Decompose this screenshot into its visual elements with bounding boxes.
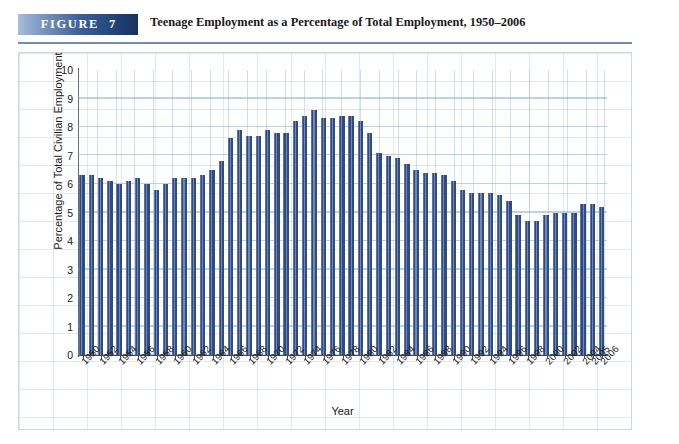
figure-header: FIGURE 7 Teenage Employment as a Percent… — [18, 14, 632, 38]
x-tick-mark-1952 — [101, 355, 102, 359]
bar-1993[interactable] — [478, 193, 483, 355]
figure-badge-number: 7 — [109, 17, 115, 32]
x-tick-mark-2005 — [593, 355, 594, 359]
chart-container: Percentage of Total Civilian Employment … — [18, 52, 632, 430]
bar-1990[interactable] — [451, 181, 456, 355]
x-tick-mark-2006 — [602, 355, 603, 359]
bar-1989[interactable] — [441, 175, 446, 355]
x-tick-mark-1954 — [120, 355, 121, 359]
bar-1967[interactable] — [237, 130, 242, 355]
x-tick-mark-2002 — [565, 355, 566, 359]
bar-1974[interactable] — [302, 116, 307, 355]
bar-1962[interactable] — [191, 178, 196, 355]
x-tick-mark-1970 — [268, 355, 269, 359]
y-axis-tick-5: 5 — [43, 207, 73, 218]
x-axis-title: Year — [78, 405, 607, 417]
x-tick-mark-1978 — [343, 355, 344, 359]
bar-1953[interactable] — [107, 181, 112, 355]
y-axis-tick-9: 9 — [43, 93, 73, 104]
bar-1970[interactable] — [265, 130, 270, 355]
y-axis-tick-2: 2 — [43, 293, 73, 304]
bar-1964[interactable] — [209, 170, 214, 355]
x-tick-mark-1968 — [250, 355, 251, 359]
bar-1999[interactable] — [534, 221, 539, 355]
x-tick-mark-1962 — [194, 355, 195, 359]
bar-1972[interactable] — [283, 133, 288, 355]
bar-1976[interactable] — [321, 118, 326, 355]
x-tick-mark-1996 — [510, 355, 511, 359]
bar-2003[interactable] — [571, 213, 576, 356]
bar-1985[interactable] — [404, 164, 409, 355]
x-tick-mark-1982 — [380, 355, 381, 359]
bar-1975[interactable] — [311, 110, 316, 355]
bar-2001[interactable] — [553, 213, 558, 356]
bar-1988[interactable] — [432, 173, 437, 355]
bar-1995[interactable] — [497, 195, 502, 355]
bar-1954[interactable] — [116, 184, 121, 355]
bar-1992[interactable] — [469, 193, 474, 355]
plot-area — [78, 70, 607, 355]
bar-2006[interactable] — [599, 207, 604, 355]
bar-1982[interactable] — [376, 153, 381, 355]
y-axis-tick-4: 4 — [43, 236, 73, 247]
bar-1958[interactable] — [154, 190, 159, 355]
x-tick-mark-1950 — [83, 355, 84, 359]
bar-1956[interactable] — [135, 178, 140, 355]
y-axis-tick-6: 6 — [43, 179, 73, 190]
x-tick-mark-1988 — [435, 355, 436, 359]
bar-1996[interactable] — [506, 201, 511, 355]
x-tick-mark-2000 — [547, 355, 548, 359]
x-tick-mark-1980 — [361, 355, 362, 359]
y-axis-tick-0: 0 — [43, 350, 73, 361]
bar-1978[interactable] — [339, 116, 344, 355]
bar-1980[interactable] — [358, 121, 363, 355]
bar-1983[interactable] — [386, 156, 391, 356]
y-axis-tick-7: 7 — [43, 150, 73, 161]
y-axis-tick-8: 8 — [43, 122, 73, 133]
x-tick-mark-1972 — [287, 355, 288, 359]
bar-1965[interactable] — [219, 161, 224, 355]
bar-1951[interactable] — [89, 175, 94, 355]
bar-2005[interactable] — [590, 204, 595, 355]
bar-2004[interactable] — [580, 204, 585, 355]
x-tick-mark-1990 — [454, 355, 455, 359]
bar-2002[interactable] — [562, 213, 567, 356]
bar-1950[interactable] — [79, 175, 84, 355]
bar-1984[interactable] — [395, 158, 400, 355]
bar-1968[interactable] — [246, 136, 251, 355]
x-tick-mark-1964 — [213, 355, 214, 359]
x-tick-mark-1960 — [175, 355, 176, 359]
x-tick-mark-1986 — [417, 355, 418, 359]
bar-1998[interactable] — [525, 221, 530, 355]
x-tick-mark-1984 — [398, 355, 399, 359]
x-tick-mark-1992 — [472, 355, 473, 359]
x-axis-tick-labels: 1950195219541956195819601962196419661968… — [78, 359, 618, 405]
bar-1969[interactable] — [256, 136, 261, 355]
bar-1986[interactable] — [413, 170, 418, 355]
bar-1963[interactable] — [200, 175, 205, 355]
bar-1961[interactable] — [181, 178, 186, 355]
bar-1987[interactable] — [423, 173, 428, 355]
bar-1955[interactable] — [126, 181, 131, 355]
y-axis-tick-labels: 012345678910 — [39, 70, 73, 355]
bar-1957[interactable] — [144, 184, 149, 355]
y-axis-tick-1: 1 — [43, 321, 73, 332]
bar-1960[interactable] — [172, 178, 177, 355]
bar-1977[interactable] — [330, 118, 335, 355]
bar-1997[interactable] — [515, 215, 520, 355]
bar-1959[interactable] — [163, 184, 168, 355]
bar-1952[interactable] — [98, 178, 103, 355]
bar-2000[interactable] — [543, 215, 548, 355]
figure-badge: FIGURE 7 — [18, 14, 138, 35]
bar-1979[interactable] — [348, 116, 353, 355]
bar-1966[interactable] — [228, 138, 233, 355]
bar-1971[interactable] — [274, 133, 279, 355]
y-axis-tick-10: 10 — [43, 65, 73, 76]
bar-1991[interactable] — [460, 190, 465, 355]
x-tick-mark-1994 — [491, 355, 492, 359]
x-tick-mark-1966 — [231, 355, 232, 359]
x-tick-mark-1976 — [324, 355, 325, 359]
bar-1994[interactable] — [488, 193, 493, 355]
bar-1981[interactable] — [367, 133, 372, 355]
bar-1973[interactable] — [293, 121, 298, 355]
